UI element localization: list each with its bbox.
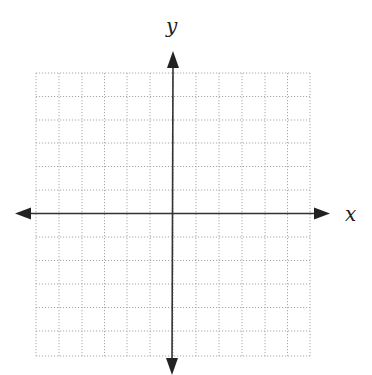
y-axis-label: y	[166, 16, 177, 36]
x-axis-right-arrow-icon	[314, 208, 330, 220]
x-axis-left-arrow-icon	[15, 208, 31, 220]
y-axis-up-arrow-icon	[167, 51, 179, 68]
y-axis-down-arrow-icon	[166, 358, 178, 375]
grid-svg	[0, 0, 372, 375]
x-axis-label: x	[345, 204, 356, 224]
coordinate-plane: y x	[0, 0, 372, 375]
